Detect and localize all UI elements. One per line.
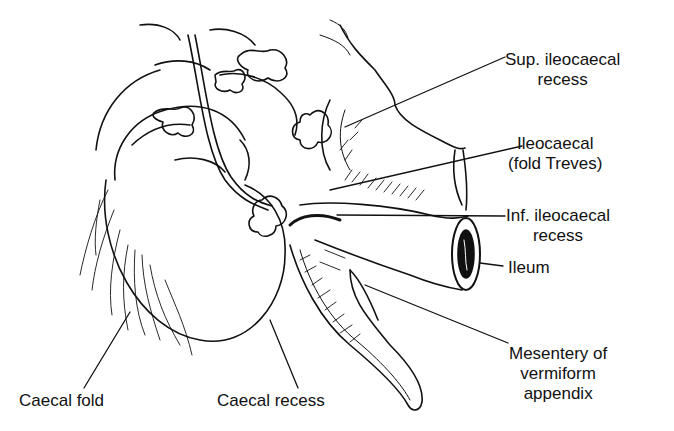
label-line: Sup. ileocaecal [505, 50, 620, 70]
label-line: Inf. ileocaecal [506, 206, 610, 226]
label-mesentery-appendix: Mesentery of vermiform appendix [509, 344, 607, 404]
label-ileocaecal-fold: Ileocaecal (fold Treves) [508, 134, 602, 174]
label-inf-ileocaecal-recess: Inf. ileocaecal recess [506, 206, 610, 246]
leader-lines [84, 57, 522, 388]
taenia-coli [188, 35, 272, 210]
label-line: Mesentery of [509, 344, 607, 364]
label-sup-ileocaecal-recess: Sup. ileocaecal recess [505, 50, 620, 90]
label-line: vermiform [509, 364, 607, 384]
label-line: (fold Treves) [508, 154, 602, 174]
caecal-fold-hatching [80, 190, 192, 355]
label-caecal-fold: Caecal fold [19, 391, 104, 411]
label-line: Ileocaecal [508, 134, 602, 154]
caecum [96, 24, 297, 341]
label-line: appendix [509, 384, 607, 404]
mesocolon-fold [320, 20, 467, 210]
label-line: recess [505, 70, 620, 90]
label-line: Caecal fold [19, 391, 104, 411]
label-line: recess [506, 226, 610, 246]
label-ileum: Ileum [508, 258, 550, 278]
vermiform-appendix [290, 215, 422, 410]
label-line: Ileum [508, 258, 550, 278]
label-line: Caecal recess [217, 391, 325, 411]
label-caecal-recess: Caecal recess [217, 391, 325, 411]
